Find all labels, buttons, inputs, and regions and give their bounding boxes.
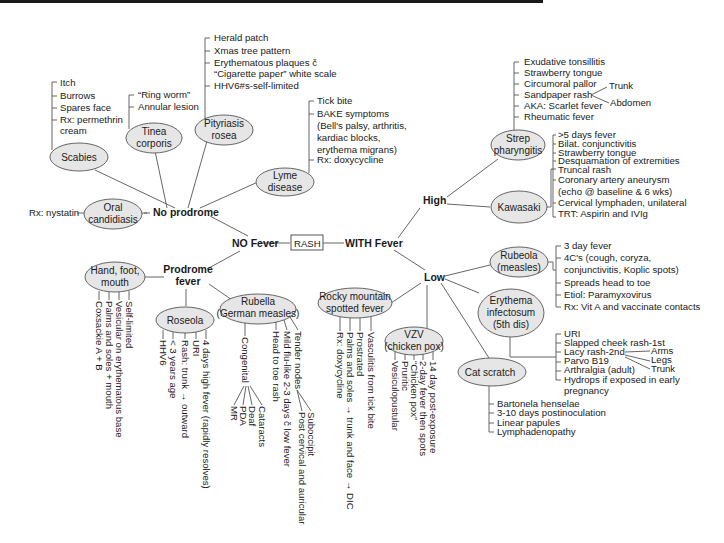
no-fever-label: NO Fever (232, 237, 279, 249)
rubella-item: Head to toe rash (271, 331, 282, 402)
prodrome-label: fever (175, 275, 200, 287)
congenital-item: MR (229, 406, 240, 421)
kawasaki-item: Coronary artery aneurysm (558, 174, 669, 185)
with-fever-label: WITH Fever (345, 237, 403, 249)
pityriasis-label: Pityriasis (204, 118, 244, 129)
pityriasis-item: Herald patch (214, 32, 268, 43)
rmsf-label: spotted fever (326, 303, 384, 314)
lyme-label: Lyme (273, 170, 298, 181)
rash-flowchart: RASH NO Fever WITH Fever No prodrome Sca… (0, 0, 724, 543)
low-fever-label: Low (424, 271, 446, 283)
rubella-label: (German measles) (217, 308, 300, 319)
cat-scratch-label: Cat scratch (465, 367, 516, 378)
pityriasis-item: Xmas tree pattern (214, 45, 290, 56)
lacy-rash-sub: Trunk (651, 363, 675, 374)
roseola-item: HHV6 (158, 340, 169, 366)
strep-item: Rheumatic fever (524, 111, 595, 122)
erythema-item: Hydrops if exposed in early (564, 374, 680, 385)
strep-label: pharyngitis (494, 145, 542, 156)
hfm-item: Coxsackie A + B (94, 301, 105, 371)
rmsf-item: Vasculitis from tick bite (366, 332, 377, 429)
sandpaper-sub: Abdomen (610, 97, 651, 108)
rmsf-item: Rx: doxycycline (335, 332, 346, 399)
strep-item: Sandpaper rash (524, 89, 592, 100)
strep-item: Strawberry tongue (524, 67, 602, 78)
tinea-label: Tinea (142, 126, 167, 137)
rash-label: RASH (294, 238, 321, 249)
erythema-label: infectosum (487, 307, 535, 318)
rubeola-item: conjunctivitis, Koplic spots) (564, 264, 679, 275)
vzv-label: VZV (404, 329, 424, 340)
scabies-item: Spares face (60, 102, 111, 113)
roseola-item: URI (191, 340, 202, 357)
pityriasis-item: HHV6#s-self-limited (214, 80, 299, 91)
hfm-label: mouth (101, 277, 129, 288)
rubella-item: Tender nodes (293, 331, 304, 389)
tender-nodes-item: Post cervical and auricular (297, 412, 308, 525)
rubeola-label: (measles) (497, 262, 541, 273)
rubeola-item: 4C's (cough, coryza, (564, 252, 651, 263)
rmsf-label: Rocky mountain (319, 291, 391, 302)
erythema-label: Erythema (490, 295, 533, 306)
high-fever-label: High (423, 194, 446, 206)
oral-rx: Rx: nystatin (29, 207, 79, 218)
lyme-item: (Bell's palsy, arthritis, (317, 120, 407, 131)
rubeola-item: 3 day fever (564, 240, 612, 251)
erythema-item: pregnancy (564, 385, 609, 396)
lyme-item: Tick bite (317, 95, 352, 106)
kawasaki-item: TRT: Aspirin and IVIg (558, 208, 648, 219)
hfm-label: Hand, foot, (91, 265, 140, 276)
roseola-label: Roseola (167, 315, 204, 326)
prodrome-label: Prodrome (163, 263, 213, 275)
rubella-congenital: Congenital (240, 337, 251, 383)
strep-item: Circumoral pallor (524, 78, 597, 89)
tinea-label: corporis (136, 138, 172, 149)
lyme-item: kardiac blocks, (317, 132, 380, 143)
no-prodrome-label: No prodrome (153, 206, 219, 218)
vzv-label: (chicken pox) (384, 341, 443, 352)
tinea-item: “Ring worm” (138, 89, 190, 100)
tinea-item: Annular lesion (138, 101, 199, 112)
scabies-item: cream (60, 125, 87, 136)
rubella-item: Mild flu-like 2-3 days č low fever (282, 331, 293, 468)
erythema-label: (5th dis) (493, 319, 529, 330)
vzv-item: Vesiculopustular (390, 361, 401, 432)
pityriasis-label: rosea (211, 130, 236, 141)
scabies-item: Rx: permethrin (60, 114, 123, 125)
lyme-item: Rx: doxycycline (317, 154, 384, 165)
sandpaper-sub: Trunk (609, 80, 633, 91)
kawasaki-item: (echo @ baseline & 6 wks) (558, 186, 672, 197)
strep-label: Strep (506, 133, 530, 144)
kawasaki-item: Cervical lymphaden, unilateral (558, 197, 687, 208)
rubeola-item: Rx: Vit A and vaccinate contacts (564, 301, 701, 312)
oral-label: candidiasis (88, 214, 137, 225)
oral-label: Oral (104, 202, 123, 213)
scabies-item: Burrows (60, 90, 95, 101)
lyme-label: disease (268, 182, 303, 193)
strep-item: AKA: Scarlet fever (524, 100, 603, 111)
scabies-label: Scabies (61, 152, 97, 163)
lyme-item: BAKE symptoms (317, 108, 389, 119)
pityriasis-item: Erythematous plaques č (214, 57, 317, 68)
rubella-label: Rubella (241, 296, 275, 307)
strep-item: Exudative tonsillitis (524, 56, 605, 67)
rubeola-item: Etiol: Paramyxovirus (564, 289, 652, 300)
pityriasis-item: “Cigarette paper” white scale (214, 68, 337, 79)
cat-scratch-item: Lymphadenopathy (497, 426, 576, 437)
kawasaki-label: Kawasaki (498, 202, 541, 213)
rubeola-item: Spreads head to toe (564, 277, 650, 288)
roseola-item: Rash: trunk → outward (180, 340, 191, 438)
rubeola-label: Rubeola (500, 250, 538, 261)
scabies-item: Itch (60, 77, 75, 88)
roseola-item: 4 days high fever (rapidly resolves) (201, 340, 212, 489)
